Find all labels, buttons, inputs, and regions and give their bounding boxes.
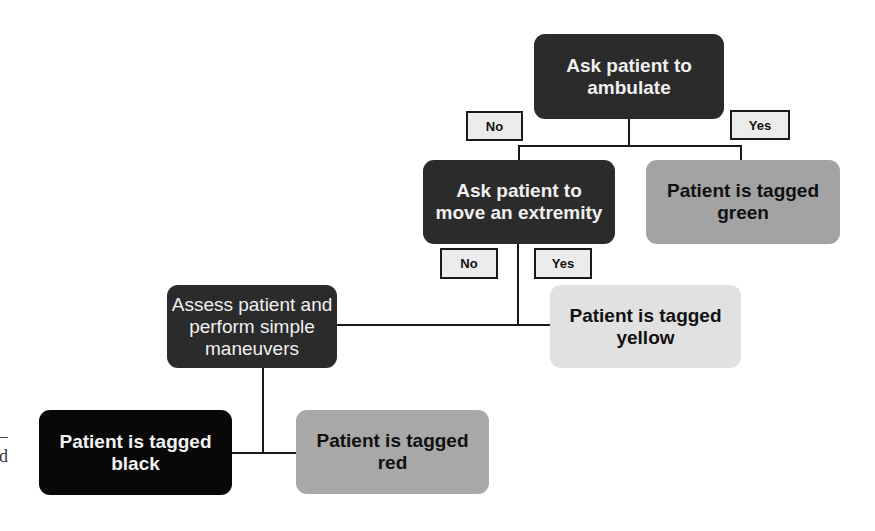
node-tagged-yellow-text: Patient is tagged yellow <box>569 305 721 349</box>
connector-ambulate-down <box>628 118 630 147</box>
connector-black-red <box>231 452 297 454</box>
node-tagged-red-text: Patient is tagged red <box>316 430 468 474</box>
connector-assess-down <box>262 366 264 454</box>
node-ask-ambulate: Ask patient to ambulate <box>534 34 724 119</box>
margin-text-fragment: d <box>0 446 8 467</box>
node-ask-ambulate-text: Ask patient to ambulate <box>566 55 692 99</box>
label-no-extremity: No <box>440 248 498 279</box>
node-tagged-black-text: Patient is tagged black <box>59 431 211 475</box>
node-tagged-green: Patient is tagged green <box>646 160 840 244</box>
node-ask-move-extremity: Ask patient to move an extremity <box>423 160 615 244</box>
connector-ambulate-branch <box>518 145 742 147</box>
node-tagged-yellow: Patient is tagged yellow <box>550 285 741 368</box>
node-tagged-black: Patient is tagged black <box>39 410 232 495</box>
node-assess-patient-text: Assess patient and perform simple maneuv… <box>172 294 333 360</box>
label-no-ambulate: No <box>466 111 523 141</box>
label-yes-ambulate: Yes <box>730 110 790 140</box>
connector-assess-yellow <box>336 324 552 326</box>
connector-extremity-down <box>517 243 519 325</box>
node-tagged-red: Patient is tagged red <box>296 410 489 494</box>
label-yes-extremity: Yes <box>534 248 592 279</box>
node-assess-patient: Assess patient and perform simple maneuv… <box>167 285 337 368</box>
node-tagged-green-text: Patient is tagged green <box>667 180 819 224</box>
margin-rule <box>0 437 8 438</box>
node-ask-move-extremity-text: Ask patient to move an extremity <box>436 180 603 224</box>
